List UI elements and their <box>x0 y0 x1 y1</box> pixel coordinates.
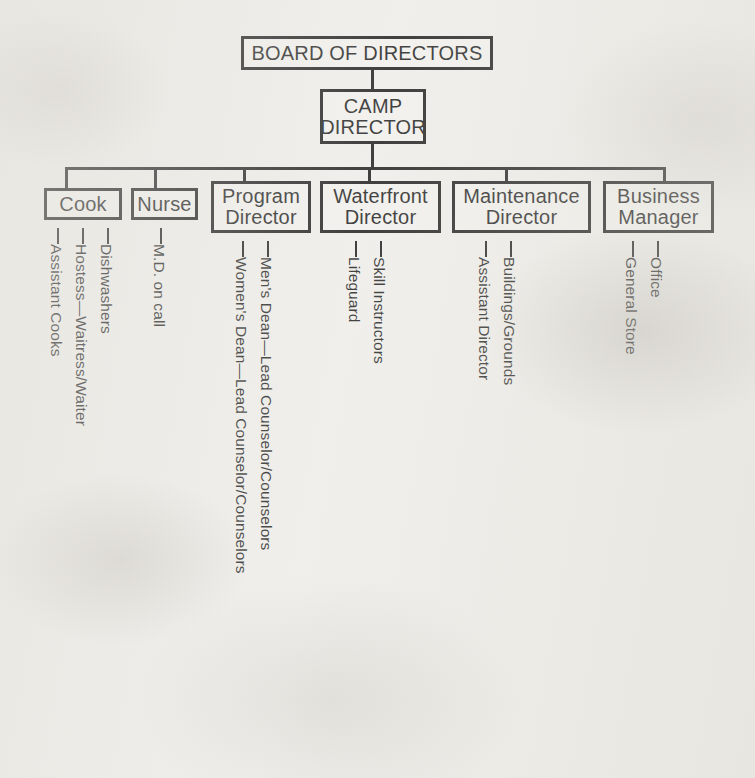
drop-line-waterfront-director <box>368 167 371 182</box>
report-label-program-director-1: Men's Dean—Lead Counselor/Counselors <box>259 257 275 550</box>
board-of-directors-label: BOARD OF DIRECTORS <box>247 43 486 64</box>
org-chart-canvas: BOARD OF DIRECTORS CAMP DIRECTOR Cook Nu… <box>0 0 755 778</box>
report-label-waterfront-director-0: Lifeguard <box>347 257 363 323</box>
drop-line-program-director <box>243 167 246 182</box>
business-manager-label-line1: Business <box>613 186 704 207</box>
report-label-cook-2: Dishwashers <box>99 244 115 334</box>
tick-business-manager-report-0 <box>632 241 634 257</box>
report-label-waterfront-director-1: Skill Instructors <box>372 257 388 364</box>
report-label-business-manager-0: General Store <box>624 257 640 355</box>
report-label-program-director-0: Women's Dean—Lead Counselor/Counselors <box>234 257 250 574</box>
report-label-nurse-0: M.D. on call <box>152 244 168 327</box>
drop-line-business-manager <box>663 167 666 182</box>
box-camp-director: CAMP DIRECTOR <box>320 89 426 144</box>
box-program-director: Program Director <box>211 181 311 233</box>
tick-maintenance-director-report-0 <box>485 241 487 257</box>
box-maintenance-director: Maintenance Director <box>452 181 591 233</box>
report-label-cook-1: Hostess—Waitress/Waiter <box>74 244 90 426</box>
tick-business-manager-report-1 <box>657 241 659 257</box>
drop-line-nurse <box>154 167 157 189</box>
maintenance-director-label-line2: Director <box>482 207 562 228</box>
box-board-of-directors: BOARD OF DIRECTORS <box>241 36 493 70</box>
drop-line-maintenance-director <box>505 167 508 182</box>
tick-cook-report-0 <box>57 228 59 244</box>
tick-cook-report-1 <box>82 228 84 244</box>
waterfront-director-label-line1: Waterfront <box>329 186 432 207</box>
report-label-business-manager-1: Office <box>649 257 665 298</box>
tick-program-director-report-0 <box>242 241 244 257</box>
tick-nurse-report-0 <box>160 228 162 244</box>
camp-director-label-line2: DIRECTOR <box>316 117 430 138</box>
camp-director-label-line1: CAMP <box>340 96 407 117</box>
tick-waterfront-director-report-1 <box>380 241 382 257</box>
business-manager-label-line2: Manager <box>614 207 702 228</box>
report-label-cook-0: Assistant Cooks <box>49 244 65 357</box>
tick-maintenance-director-report-1 <box>510 241 512 257</box>
report-label-maintenance-director-0: Assistant Director <box>477 257 493 380</box>
cook-label: Cook <box>55 194 111 215</box>
tick-waterfront-director-report-0 <box>355 241 357 257</box>
maintenance-director-label-line1: Maintenance <box>459 186 584 207</box>
tick-program-director-report-1 <box>267 241 269 257</box>
box-nurse: Nurse <box>131 188 198 220</box>
box-business-manager: Business Manager <box>603 181 714 233</box>
program-director-label-line1: Program <box>218 186 304 207</box>
box-waterfront-director: Waterfront Director <box>320 181 441 233</box>
waterfront-director-label-line2: Director <box>341 207 421 228</box>
box-cook: Cook <box>44 188 122 220</box>
report-label-maintenance-director-1: Buildings/Grounds <box>502 257 518 385</box>
connector-board-to-camp-director <box>371 70 374 89</box>
program-director-label-line2: Director <box>221 207 301 228</box>
connector-camp-director-to-bus <box>371 144 374 169</box>
nurse-label: Nurse <box>133 194 195 215</box>
drop-line-cook <box>65 167 68 189</box>
tick-cook-report-2 <box>107 228 109 244</box>
